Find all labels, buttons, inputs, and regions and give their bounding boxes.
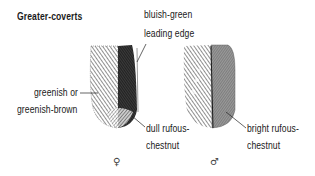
label-female-inner-line2: chestnut	[146, 140, 179, 152]
label-male-inner-line2: chestnut	[247, 140, 280, 152]
female-symbol-icon: ♀	[113, 157, 120, 167]
female-feather	[90, 45, 138, 128]
diagram-title: Greater-coverts	[17, 11, 82, 23]
label-male-inner-line1: bright rufous-	[247, 123, 299, 135]
label-leading-edge-line2: leading edge	[144, 28, 194, 40]
leader-female-inner	[132, 116, 145, 127]
label-outer-web-line2: greenish-brown	[17, 104, 77, 116]
label-leading-edge-line1: bluish-green	[144, 9, 192, 21]
label-outer-web-line1: greenish or	[34, 87, 78, 99]
male-symbol-icon: ♂	[210, 157, 219, 167]
label-female-inner-line1: dull rufous-	[146, 123, 190, 135]
male-feather	[184, 45, 235, 128]
leader-leading-edge	[137, 44, 146, 62]
